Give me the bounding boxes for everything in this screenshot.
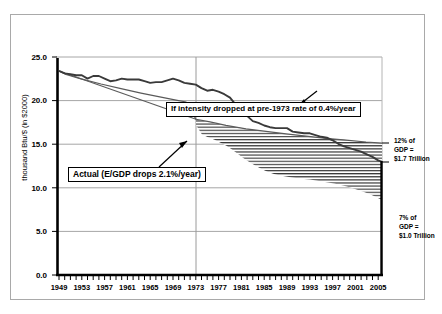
actual-arrow-icon [159, 141, 187, 167]
figure-frame: thousand Btu/$ (in $2000) 25.0 20.0 15.0… [10, 14, 425, 300]
note-7-line3: $1.0 Trillion [399, 232, 435, 241]
callout-actual-rate: Actual (E/GDP drops 2.1%/year) [68, 167, 206, 182]
note-12-line2: GDP = [394, 146, 430, 155]
y-tick-label-15: 15.0 [19, 140, 47, 149]
x-axis-ticks [59, 276, 378, 280]
chart-page: thousand Btu/$ (in $2000) 25.0 20.0 15.0… [0, 0, 442, 314]
y-tick-label-25: 25.0 [19, 53, 47, 62]
note-7-line1: 7% of [399, 214, 435, 223]
note-7-line2: GDP = [399, 223, 435, 232]
callout-projection-rate: If intensity dropped at pre-1973 rate of… [166, 102, 361, 117]
note-12-line3: $1.7 Trillion [394, 155, 430, 164]
note-leader-lines [382, 143, 389, 162]
energy-intensity-chart [11, 15, 426, 301]
note-12-line1: 12% of [394, 137, 430, 146]
y-tick-label-10: 10.0 [19, 184, 47, 193]
note-7-percent-gdp: 7% of GDP = $1.0 Trillion [399, 214, 435, 240]
y-tick-label-5: 5.0 [19, 227, 47, 236]
note-12-percent-gdp: 12% of GDP = $1.7 Trillion [394, 137, 430, 163]
x-tick-label-2005: 2005 [365, 283, 391, 292]
y-tick-label-0: 0.0 [19, 271, 47, 280]
y-tick-label-20: 20.0 [19, 96, 47, 105]
